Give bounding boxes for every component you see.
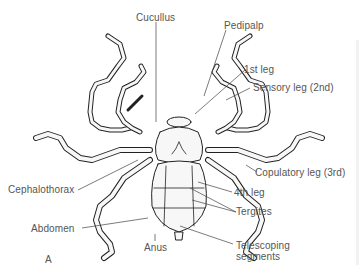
label-telescoping: Telescoping (236, 240, 290, 251)
label-1st-leg: 1st leg (244, 64, 274, 75)
label-cephalothorax: Cephalothorax (8, 184, 74, 195)
label-anus: Anus (144, 242, 167, 253)
diagram-canvas: Cucullus Pedipalp 1st leg Sensory leg (2… (0, 0, 359, 271)
label-tergites: Tergites (236, 206, 272, 217)
label-cucullus: Cucullus (136, 12, 175, 23)
label-segments: segments (236, 251, 280, 262)
label-abdomen: Abdomen (31, 223, 75, 234)
label-sensory-leg: Sensory leg (2nd) (253, 82, 334, 93)
label-pedipalp: Pedipalp (224, 20, 264, 31)
label-4th-leg: 4th leg (234, 187, 265, 198)
panel-letter: A (45, 254, 52, 265)
label-copulatory-leg: Copulatory leg (3rd) (255, 167, 345, 178)
